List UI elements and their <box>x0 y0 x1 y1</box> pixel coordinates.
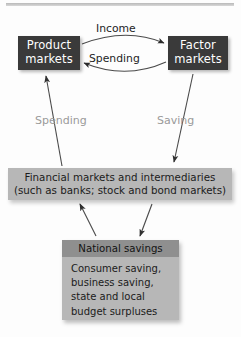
economics-flow-diagram: Product markets Factor markets Financial… <box>0 0 241 337</box>
national-savings-body-line1: Consumer saving, <box>71 262 179 276</box>
national-savings-body-line4: budget surpluses <box>71 305 179 319</box>
financial-markets-label-line1: Financial markets and intermediaries <box>25 171 216 184</box>
node-financial-markets[interactable]: Financial markets and intermediaries (su… <box>8 168 232 200</box>
national-savings-body-line3: state and local <box>71 290 179 304</box>
product-markets-label-line1: Product <box>27 39 71 53</box>
label-spending-middle: Spending <box>35 114 87 127</box>
label-spending-top: Spending <box>89 52 140 65</box>
label-saving-middle: Saving <box>157 114 194 127</box>
node-factor-markets[interactable]: Factor markets <box>168 36 228 70</box>
national-savings-body-line2: business saving, <box>71 276 179 290</box>
income-flow-arrow <box>82 35 164 44</box>
node-national-savings[interactable]: National savings Consumer saving, busine… <box>62 240 179 320</box>
node-product-markets[interactable]: Product markets <box>18 36 80 70</box>
factor-markets-label-line2: markets <box>174 53 222 67</box>
national-savings-header: National savings <box>62 240 179 257</box>
product-markets-label-line2: markets <box>25 53 73 67</box>
financial-markets-label-line2: (such as banks; stock and bond markets) <box>14 184 226 197</box>
label-income: Income <box>96 22 136 35</box>
national-savings-body: Consumer saving, business saving, state … <box>62 257 179 319</box>
factor-markets-label-line1: Factor <box>180 39 216 53</box>
financial-to-national-savings-arrow <box>140 204 152 236</box>
national-savings-to-financial-arrow <box>80 204 96 236</box>
